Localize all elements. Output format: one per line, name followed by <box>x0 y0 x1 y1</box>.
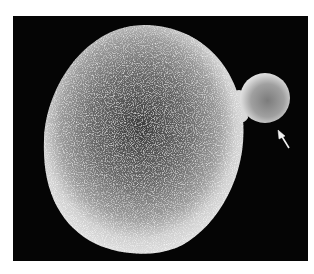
arrow-icon <box>278 130 289 148</box>
micrograph-image <box>0 0 314 274</box>
bud-cell <box>240 73 290 123</box>
mother-cell <box>44 25 244 254</box>
